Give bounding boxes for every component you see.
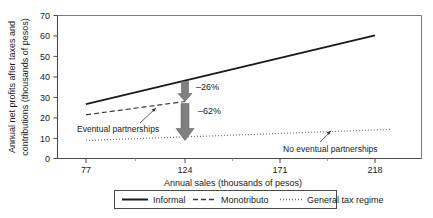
series-monotributo [86,102,185,115]
no-eventual-partnerships-callout: No eventual partnerships [283,131,378,154]
y-tick-label-70: 70 [40,11,50,21]
y-tick-label-30: 30 [40,93,50,103]
y-axis-title-line1: Annual net profits after taxes and [7,21,17,153]
y-tick-label-60: 60 [40,31,50,41]
y-tick-label-50: 50 [40,52,50,62]
x-tick-label-171: 171 [272,165,287,175]
no-eventual-partnerships-label: No eventual partnerships [283,144,378,154]
drop-arrow-62-label: –62% [198,106,221,116]
x-tick-label-77: 77 [81,165,91,175]
x-axis: 77 124 171 218 Annual sales (thousands o… [81,159,383,189]
y-axis-title-line2: contributions (thousands of pesos) [20,18,30,156]
legend-label-monotributo: Monotributo [221,195,269,205]
legend-label-informal: Informal [153,195,186,205]
legend: Informal Monotributo General tax regime [115,191,384,209]
x-tick-label-124: 124 [177,165,192,175]
y-tick-label-0: 0 [45,154,50,164]
chart-figure: 70 60 50 40 30 20 10 0 Annual net profit… [0,0,433,218]
drop-arrow-26 [178,81,192,101]
y-tick-label-20: 20 [40,113,50,123]
series-informal [86,35,375,104]
drop-arrow-62 [176,104,194,141]
drop-arrow-26-label: –26% [196,82,219,92]
y-axis: 70 60 50 40 30 20 10 0 Annual net profit… [7,11,58,164]
x-tick-marks [86,159,375,164]
y-tick-label-40: 40 [40,72,50,82]
x-tick-label-218: 218 [367,165,382,175]
y-tick-marks [54,16,58,159]
legend-label-general-tax-regime: General tax regime [307,195,384,205]
eventual-partnerships-label: Eventual partnerships [77,124,159,134]
x-axis-title: Annual sales (thousands of pesos) [164,178,302,188]
eventual-partnerships-callout: Eventual partnerships [77,108,159,134]
y-tick-label-10: 10 [40,134,50,144]
